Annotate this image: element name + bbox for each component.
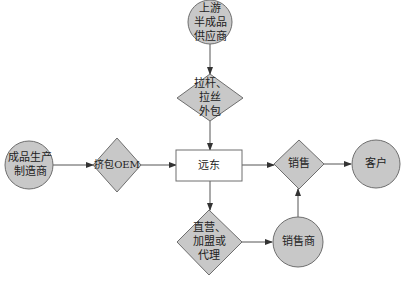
label-drawbar-outsourcing: 拉杆、 拉丝 外包 [183, 76, 237, 120]
label-oem-packaging: 挤包OEM [91, 157, 143, 173]
label-direct-franchise-agency: 直营、 加盟或 代理 [182, 220, 236, 264]
label-customer: 客户 [352, 156, 400, 172]
label-finished-goods-maker: 成品生产 制造商 [3, 148, 57, 182]
label-upstream-supplier: 上游 半成品 供应商 [186, 2, 234, 44]
label-sales: 销售 [276, 156, 322, 172]
label-distributor: 销售商 [273, 234, 323, 250]
label-yuandong: 远东 [176, 150, 242, 181]
